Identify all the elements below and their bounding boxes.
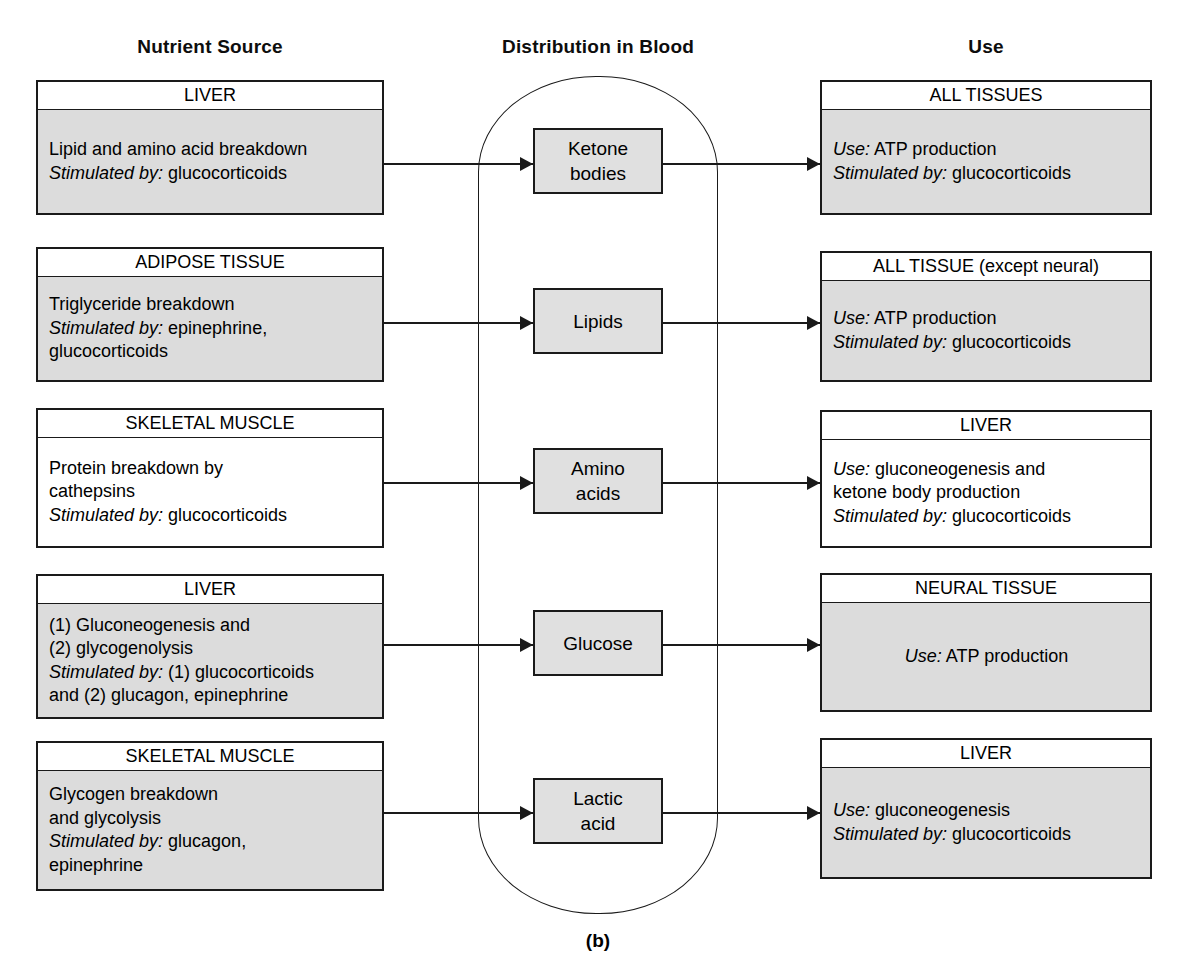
box-text-line: Protein breakdown by bbox=[49, 457, 372, 481]
source-to-metabolite-connector-line-2 bbox=[384, 482, 533, 484]
metabolite-label-4: Lactic acid bbox=[573, 786, 623, 836]
metabolite-to-use-connector-line-2 bbox=[663, 482, 820, 484]
emphasis-label: Use: bbox=[833, 800, 870, 820]
box-text-line: Stimulated by: glucocorticoids bbox=[833, 505, 1140, 529]
metabolite-to-use-arrowhead-4 bbox=[807, 806, 820, 820]
box-text-line: glucocorticoids bbox=[49, 340, 372, 364]
box-text-line: and (2) glucagon, epinephrine bbox=[49, 684, 372, 708]
nutrient-source-box-body-0: Lipid and amino acid breakdownStimulated… bbox=[38, 110, 382, 213]
use-box-body-0: Use: ATP productionStimulated by: glucoc… bbox=[822, 110, 1150, 213]
metabolite-to-use-connector-line-1 bbox=[663, 322, 820, 324]
emphasis-label: Stimulated by: bbox=[49, 831, 163, 851]
use-box-header-0: ALL TISSUES bbox=[822, 82, 1150, 110]
nutrient-source-box-body-1: Triglyceride breakdownStimulated by: epi… bbox=[38, 277, 382, 380]
box-text-line: epinephrine bbox=[49, 854, 372, 878]
box-text-line: Use: gluconeogenesis and bbox=[833, 458, 1140, 482]
metabolite-to-use-connector-line-0 bbox=[663, 163, 820, 165]
box-text-line: Use: ATP production bbox=[833, 138, 1140, 162]
box-text-line: Stimulated by: epinephrine, bbox=[49, 317, 372, 341]
box-text-line: Stimulated by: glucocorticoids bbox=[49, 504, 372, 528]
box-text-line: Use: gluconeogenesis bbox=[833, 799, 1140, 823]
emphasis-label: Use: bbox=[833, 139, 870, 159]
metabolite-to-use-connector-line-4 bbox=[663, 812, 820, 814]
source-to-metabolite-connector-line-1 bbox=[384, 322, 533, 324]
emphasis-label: Use: bbox=[833, 459, 870, 479]
box-text-line: Lipid and amino acid breakdown bbox=[49, 138, 372, 162]
metabolite-box-3: Glucose bbox=[533, 610, 663, 676]
column-heading-nutrient-source: Nutrient Source bbox=[36, 36, 384, 58]
emphasis-label: Stimulated by: bbox=[833, 506, 947, 526]
box-text-line: Use: ATP production bbox=[833, 307, 1140, 331]
column-heading-distribution-in-blood: Distribution in Blood bbox=[478, 36, 718, 58]
use-box-body-1: Use: ATP productionStimulated by: glucoc… bbox=[822, 281, 1150, 380]
box-text-line: Stimulated by: glucocorticoids bbox=[833, 331, 1140, 355]
metabolite-to-use-arrowhead-3 bbox=[807, 638, 820, 652]
emphasis-label: Use: bbox=[905, 646, 942, 666]
emphasis-label: Use: bbox=[833, 308, 870, 328]
metabolite-to-use-connector-line-3 bbox=[663, 644, 820, 646]
emphasis-label: Stimulated by: bbox=[833, 163, 947, 183]
source-to-metabolite-arrowhead-3 bbox=[520, 638, 533, 652]
emphasis-label: Stimulated by: bbox=[49, 163, 163, 183]
metabolism-flow-diagram: Nutrient Source Distribution in Blood Us… bbox=[0, 0, 1192, 972]
nutrient-source-box-3: LIVER(1) Gluconeogenesis and(2) glycogen… bbox=[36, 574, 384, 719]
use-box-3: NEURAL TISSUEUse: ATP production bbox=[820, 573, 1152, 712]
box-text-line: Stimulated by: glucocorticoids bbox=[49, 162, 372, 186]
source-to-metabolite-arrowhead-0 bbox=[520, 157, 533, 171]
use-box-4: LIVERUse: gluconeogenesisStimulated by: … bbox=[820, 738, 1152, 879]
metabolite-box-2: Amino acids bbox=[533, 448, 663, 514]
column-heading-use: Use bbox=[820, 36, 1152, 58]
source-to-metabolite-connector-line-3 bbox=[384, 644, 533, 646]
use-box-body-2: Use: gluconeogenesis andketone body prod… bbox=[822, 440, 1150, 546]
emphasis-label: Stimulated by: bbox=[49, 662, 163, 682]
emphasis-label: Stimulated by: bbox=[49, 505, 163, 525]
nutrient-source-box-body-3: (1) Gluconeogenesis and(2) glycogenolysi… bbox=[38, 604, 382, 717]
metabolite-box-0: Ketone bodies bbox=[533, 128, 663, 194]
use-box-1: ALL TISSUE (except neural)Use: ATP produ… bbox=[820, 251, 1152, 382]
box-text-line: Glycogen breakdown bbox=[49, 783, 372, 807]
source-to-metabolite-arrowhead-2 bbox=[520, 476, 533, 490]
metabolite-label-0: Ketone bodies bbox=[568, 136, 628, 186]
box-text-line: Stimulated by: glucagon, bbox=[49, 830, 372, 854]
nutrient-source-box-4: SKELETAL MUSCLEGlycogen breakdownand gly… bbox=[36, 741, 384, 891]
source-to-metabolite-arrowhead-4 bbox=[520, 806, 533, 820]
emphasis-label: Stimulated by: bbox=[833, 824, 947, 844]
nutrient-source-box-header-2: SKELETAL MUSCLE bbox=[38, 410, 382, 438]
use-box-0: ALL TISSUESUse: ATP productionStimulated… bbox=[820, 80, 1152, 215]
box-text-line: Stimulated by: (1) glucocorticoids bbox=[49, 661, 372, 685]
metabolite-to-use-arrowhead-1 bbox=[807, 316, 820, 330]
box-text-line: cathepsins bbox=[49, 480, 372, 504]
metabolite-box-4: Lactic acid bbox=[533, 778, 663, 844]
emphasis-label: Stimulated by: bbox=[833, 332, 947, 352]
metabolite-box-1: Lipids bbox=[533, 288, 663, 354]
nutrient-source-box-header-1: ADIPOSE TISSUE bbox=[38, 249, 382, 277]
use-box-body-3: Use: ATP production bbox=[822, 603, 1150, 710]
metabolite-to-use-arrowhead-2 bbox=[807, 476, 820, 490]
emphasis-label: Stimulated by: bbox=[49, 318, 163, 338]
metabolite-label-3: Glucose bbox=[563, 631, 633, 656]
nutrient-source-box-1: ADIPOSE TISSUETriglyceride breakdownStim… bbox=[36, 247, 384, 382]
use-box-body-4: Use: gluconeogenesisStimulated by: gluco… bbox=[822, 768, 1150, 877]
source-to-metabolite-arrowhead-1 bbox=[520, 316, 533, 330]
nutrient-source-box-body-2: Protein breakdown bycathepsinsStimulated… bbox=[38, 438, 382, 546]
use-box-header-3: NEURAL TISSUE bbox=[822, 575, 1150, 603]
box-text-line: Stimulated by: glucocorticoids bbox=[833, 823, 1140, 847]
figure-caption: (b) bbox=[478, 930, 718, 952]
source-to-metabolite-connector-line-0 bbox=[384, 163, 533, 165]
box-text-line: and glycolysis bbox=[49, 807, 372, 831]
use-box-header-4: LIVER bbox=[822, 740, 1150, 768]
box-text-line: Triglyceride breakdown bbox=[49, 293, 372, 317]
nutrient-source-box-0: LIVERLipid and amino acid breakdownStimu… bbox=[36, 80, 384, 215]
box-text-line: Use: ATP production bbox=[905, 645, 1068, 669]
box-text-line: ketone body production bbox=[833, 481, 1140, 505]
nutrient-source-box-body-4: Glycogen breakdownand glycolysisStimulat… bbox=[38, 771, 382, 889]
use-box-header-1: ALL TISSUE (except neural) bbox=[822, 253, 1150, 281]
nutrient-source-box-2: SKELETAL MUSCLEProtein breakdown bycathe… bbox=[36, 408, 384, 548]
box-text-line: (1) Gluconeogenesis and bbox=[49, 614, 372, 638]
box-text-line: Stimulated by: glucocorticoids bbox=[833, 162, 1140, 186]
use-box-2: LIVERUse: gluconeogenesis andketone body… bbox=[820, 410, 1152, 548]
metabolite-to-use-arrowhead-0 bbox=[807, 157, 820, 171]
nutrient-source-box-header-3: LIVER bbox=[38, 576, 382, 604]
metabolite-label-1: Lipids bbox=[573, 309, 623, 334]
metabolite-label-2: Amino acids bbox=[571, 456, 625, 506]
